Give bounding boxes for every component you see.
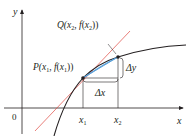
secant-chord [83, 57, 118, 78]
point-q [116, 55, 120, 59]
x1-tick-label: x1 [78, 114, 86, 126]
dx-bracket [83, 79, 118, 82]
point-q-label: Q(x2, f(x2)) [57, 20, 98, 31]
x2-tick-label: x2 [113, 114, 121, 126]
point-p [81, 76, 85, 80]
y-axis-label: y [12, 6, 18, 17]
origin-label: 0 [12, 112, 17, 122]
delta-y-label: Δy [125, 62, 137, 73]
delta-x-label: Δx [94, 87, 106, 98]
x-axis-label: x [176, 115, 182, 126]
dy-bracket [120, 58, 123, 78]
secant-tangent-diagram: y x 0 x1 x2 P(x1, f(x1)) Q(x2, f(x2)) Δx… [0, 0, 186, 136]
point-p-label: P(x1, f(x1)) [32, 62, 73, 73]
